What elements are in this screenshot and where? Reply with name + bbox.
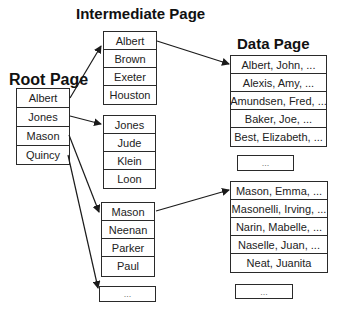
arrow-root-quincy bbox=[68, 155, 98, 288]
pointer-arrows bbox=[0, 0, 344, 314]
arrow-root-mason bbox=[69, 135, 99, 212]
arrow-intermediate-mason bbox=[156, 190, 229, 211]
arrow-intermediate-albert bbox=[157, 41, 229, 64]
arrow-root-jones bbox=[70, 116, 101, 124]
arrow-root-albert bbox=[70, 46, 101, 98]
